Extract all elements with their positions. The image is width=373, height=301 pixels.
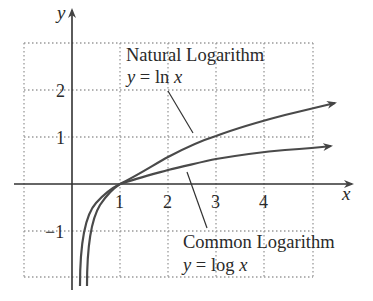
log-equation: y = log x — [181, 255, 248, 275]
x-axis-label: x — [341, 183, 351, 204]
x-tick-4: 4 — [259, 192, 268, 212]
x-tick-2: 2 — [163, 192, 172, 212]
log-chart: y x 1 2 3 4 2 1 −1 Natural Logarithm y =… — [0, 0, 373, 301]
ln-equation: y = ln x — [125, 67, 183, 87]
y-tick-1: 1 — [56, 128, 65, 148]
ln-title: Natural Logarithm — [126, 45, 265, 65]
x-tick-3: 3 — [211, 192, 220, 212]
y-tick-2: 2 — [56, 81, 65, 101]
ln-leader-line — [168, 91, 193, 133]
x-tick-1: 1 — [115, 192, 124, 212]
y-tick-neg1: −1 — [45, 222, 64, 242]
log-title: Common Logarithm — [183, 232, 335, 252]
y-axis-label: y — [55, 2, 66, 23]
log-leader-line — [187, 172, 207, 228]
